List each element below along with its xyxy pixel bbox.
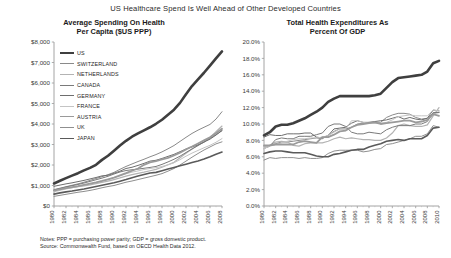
x-axis-tick-label: 1984: [282, 210, 288, 224]
x-axis-tick-label: 1990: [317, 210, 323, 224]
legend-item-canada[interactable]: CANADA: [60, 80, 119, 91]
legend-label: SWITZERLAND: [77, 61, 117, 67]
footnotes: Notes: PPP = purchasing power parity; GD…: [40, 236, 340, 251]
x-axis-tick-label: 1996: [145, 210, 151, 224]
legend-label: AUSTRIA: [77, 114, 101, 120]
legend-item-germany[interactable]: GERMANY: [60, 90, 119, 101]
series-line-france: [264, 110, 439, 149]
legend-swatch-icon: [60, 138, 74, 139]
plot-area-gdp: 0.0%2.0%4.0%6.0%8.0%10.0%12.0%14.0%16.0%…: [226, 38, 449, 240]
x-axis-tick-label: 2004: [399, 210, 405, 224]
x-axis-tick-label: 1992: [329, 210, 335, 224]
y-axis-tick-label: 10.0%: [242, 120, 260, 127]
legend-swatch-icon: [60, 95, 74, 96]
footnote-source: Source: Commonwealth Fund, based on OECD…: [40, 243, 340, 250]
chart-title-spending: Average Spending On Health Per Capita ($…: [2, 18, 226, 36]
legend-swatch-icon: [60, 127, 74, 128]
x-axis-tick-label: 1988: [97, 210, 103, 224]
x-axis-tick-label: 1998: [157, 210, 163, 224]
legend-item-france[interactable]: FRANCE: [60, 101, 119, 112]
legend-label: FRANCE: [77, 103, 100, 109]
series-line-us: [264, 61, 439, 136]
legend-item-switzerland[interactable]: SWITZERLAND: [60, 59, 119, 70]
x-axis-tick-label: 1996: [352, 210, 358, 224]
y-axis-tick-label: $3,000: [31, 141, 50, 148]
footnote-notes: Notes: PPP = purchasing power parity; GD…: [40, 236, 340, 243]
y-axis-tick-label: 20.0%: [242, 38, 260, 45]
line-chart-gdp: 0.0%2.0%4.0%6.0%8.0%10.0%12.0%14.0%16.0%…: [226, 38, 449, 240]
y-axis-tick-label: 16.0%: [242, 71, 260, 78]
chart-title-gdp: Total Health Expenditures As Percent Of …: [226, 18, 449, 36]
legend-label: CANADA: [77, 82, 100, 88]
y-axis-tick-label: 0.0%: [246, 202, 261, 209]
chart-panel-gdp: Total Health Expenditures As Percent Of …: [226, 18, 449, 240]
x-axis-tick-label: 2002: [387, 210, 393, 224]
x-axis-tick-label: 1986: [85, 210, 91, 224]
x-axis-tick-label: 1986: [294, 210, 300, 224]
x-axis-tick-label: 1984: [73, 210, 79, 224]
legend-label: UK: [77, 124, 85, 130]
x-axis-tick-label: 1982: [271, 210, 277, 224]
x-axis-tick-label: 2006: [205, 210, 211, 224]
y-axis-tick-label: 4.0%: [246, 169, 261, 176]
y-axis-tick-label: 14.0%: [242, 87, 260, 94]
series-line-uk: [264, 126, 439, 160]
legend-swatch-icon: [60, 116, 74, 117]
legend-label: GERMANY: [77, 93, 105, 99]
y-axis-tick-label: $7,000: [31, 59, 50, 66]
x-axis-tick-label: 1980: [259, 210, 265, 224]
legend-swatch-icon: [60, 63, 74, 64]
legend-item-austria[interactable]: AUSTRIA: [60, 112, 119, 123]
legend-label: NETHERLANDS: [77, 71, 119, 77]
legend-swatch-icon: [60, 85, 74, 86]
x-axis-tick-label: 2008: [217, 210, 223, 224]
y-axis-tick-label: 8.0%: [246, 137, 261, 144]
x-axis-tick-label: 1990: [109, 210, 115, 224]
y-axis-tick-label: $5,000: [31, 100, 50, 107]
legend-item-japan[interactable]: JAPAN: [60, 133, 119, 144]
y-axis-tick-label: 6.0%: [246, 153, 261, 160]
legend-item-netherlands[interactable]: NETHERLANDS: [60, 69, 119, 80]
y-axis-tick-label: 2.0%: [246, 186, 261, 193]
x-axis-tick-label: 2006: [411, 210, 417, 224]
legend-swatch-icon: [60, 52, 74, 54]
legend-label: JAPAN: [77, 135, 95, 141]
y-axis-tick-label: 12.0%: [242, 104, 260, 111]
x-axis-tick-label: 1982: [61, 210, 67, 224]
legend-label: US: [77, 50, 85, 56]
legend-item-uk[interactable]: UK: [60, 122, 119, 133]
x-axis-tick-label: 2010: [434, 210, 440, 224]
x-axis-tick-label: 1988: [306, 210, 312, 224]
x-axis-tick-label: 2000: [376, 210, 382, 224]
x-axis-tick-label: 1998: [364, 210, 370, 224]
legend-item-us[interactable]: US: [60, 48, 119, 59]
page-title: US Healthcare Spend Is Well Ahead of Oth…: [0, 4, 451, 13]
x-axis-tick-label: 1992: [121, 210, 127, 224]
x-axis-tick-label: 1980: [49, 210, 55, 224]
y-axis-tick-label: $1,000: [31, 182, 50, 189]
x-axis-tick-label: 1994: [133, 210, 139, 224]
x-axis-tick-label: 2002: [181, 210, 187, 224]
x-axis-tick-label: 2004: [193, 210, 199, 224]
x-axis-tick-label: 2000: [169, 210, 175, 224]
series-line-switzerland: [264, 113, 439, 147]
y-axis-tick-label: $0: [43, 202, 50, 209]
x-axis-tick-label: 1994: [341, 210, 347, 224]
chart-panel-spending: Average Spending On Health Per Capita ($…: [2, 18, 226, 240]
legend-swatch-icon: [60, 74, 74, 75]
y-axis-tick-label: $2,000: [31, 161, 50, 168]
legend-swatch-icon: [60, 106, 74, 107]
x-axis-tick-label: 2008: [422, 210, 428, 224]
y-axis-tick-label: 18.0%: [242, 55, 260, 62]
y-axis-tick-label: $4,000: [31, 120, 50, 127]
chart-legend: USSWITZERLANDNETHERLANDSCANADAGERMANYFRA…: [60, 48, 119, 143]
y-axis-tick-label: $6,000: [31, 79, 50, 86]
y-axis-tick-label: $8,000: [31, 38, 50, 45]
